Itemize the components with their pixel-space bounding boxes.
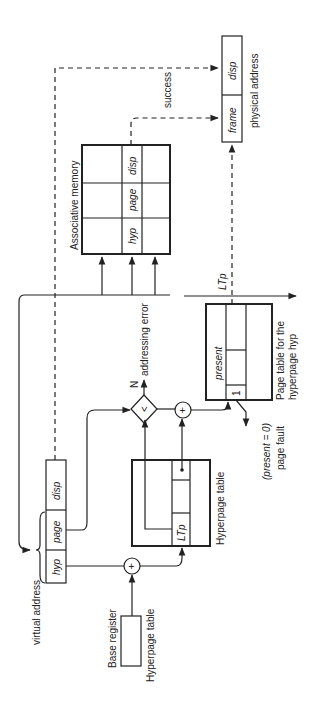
ltp-length-label: LTp (217, 273, 228, 290)
virtual-address-label: virtual address (31, 580, 42, 645)
comparator-symbol: < (139, 406, 150, 412)
fault-condition-label: (present = 0) (261, 423, 272, 480)
adder-plus-icon: + (180, 405, 186, 416)
comparator: < (131, 395, 157, 423)
va-field-disp: disp (51, 481, 62, 500)
present-field-label: present (213, 345, 224, 381)
page-fault-label: page fault (275, 426, 286, 470)
physical-address-label: physical address (249, 54, 260, 128)
page-table: present 1 Page table for the hyperpage h… (206, 304, 298, 400)
hyp-page-brace (36, 512, 45, 583)
present-bit-value: 1 (231, 390, 242, 396)
page-table-label-line1: Page table for the (275, 321, 286, 400)
va-field-page: page (51, 520, 62, 544)
addressing-error-label: addressing error (139, 303, 150, 376)
pa-field-disp: disp (227, 61, 238, 80)
assoc-col-hyp: hyp (127, 227, 138, 244)
comparator-no-label: N (129, 381, 140, 388)
base-register-sublabel: Hyperpage table (145, 608, 156, 682)
virtual-address-register: hyp page disp (46, 460, 66, 583)
assoc-col-page: page (127, 188, 138, 212)
assoc-col-disp: disp (127, 156, 138, 175)
disp-passthrough-arrow (55, 68, 218, 460)
base-register: Base register Hyperpage table (107, 608, 156, 682)
adder-to-hyperpage-arrow (140, 548, 182, 566)
success-frame-arrow (131, 118, 218, 145)
va-to-assoc-connector (19, 295, 101, 550)
adder-hyp-base: + (124, 558, 140, 574)
pa-field-frame: frame (227, 107, 238, 133)
physical-address-register: frame disp physical address (222, 36, 260, 142)
ltp-to-comparator-arrow (145, 420, 172, 529)
associative-memory-label: Associative memory (69, 161, 80, 250)
address-translation-diagram: hyp page disp virtual address Base regis… (0, 0, 317, 703)
page-to-comparator-arrow (66, 410, 130, 530)
base-register-label: Base register (107, 608, 118, 668)
adder-to-pagetable-arrow (191, 402, 228, 410)
hyperpage-table: LTp Hyperpage table (132, 460, 226, 546)
va-field-hyp: hyp (51, 558, 62, 575)
adder-page-ltp: + (175, 402, 191, 418)
adder-plus-icon: + (129, 561, 135, 572)
page-fault-branch (236, 400, 246, 414)
page-table-label-line2: hyperpage hyp (287, 333, 298, 400)
success-label: success (162, 72, 173, 108)
hyperpage-table-label: Hyperpage table (215, 471, 226, 545)
associative-memory: hyp page disp Associative memory (69, 145, 170, 254)
hyperpage-ltp-field: LTp (176, 524, 187, 541)
